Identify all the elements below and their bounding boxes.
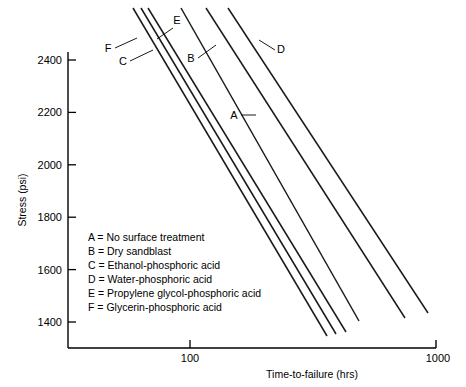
legend-item-D: D = Water-phosphoric acid — [88, 273, 212, 285]
y-tick-label-2000: 2000 — [38, 159, 62, 171]
legend-item-C: C = Ethanol-phosphoric acid — [88, 259, 220, 271]
x-tick-label-100: 100 — [181, 352, 199, 364]
y-tick-label-2200: 2200 — [38, 106, 62, 118]
y-tick-label-1400: 1400 — [38, 316, 62, 328]
curve-label-A: A — [230, 109, 238, 121]
curve-label-D: D — [277, 43, 285, 55]
legend-item-E: E = Propylene glycol-phosphoric acid — [88, 287, 261, 299]
curve-label-C: C — [119, 55, 127, 67]
curve-label-B: B — [187, 52, 194, 64]
x-axis-title: Time-to-failure (hrs) — [266, 368, 358, 380]
legend-item-B: B = Dry sandblast — [88, 245, 171, 257]
y-tick-label-1600: 1600 — [38, 264, 62, 276]
y-tick-label-1800: 1800 — [38, 211, 62, 223]
chart-background — [0, 0, 466, 387]
y-tick-label-2400: 2400 — [38, 54, 62, 66]
curve-label-E: E — [173, 14, 180, 26]
sn-curve-chart: 2400 2200 2000 1800 1600 1400 100 1000 T… — [0, 0, 466, 387]
x-tick-label-1000: 1000 — [426, 352, 450, 364]
curve-label-F: F — [105, 42, 112, 54]
legend-item-A: A = No surface treatment — [88, 231, 205, 243]
legend-item-F: F = Glycerin-phosphoric acid — [88, 301, 222, 313]
y-axis-title: Stress (psi) — [16, 173, 28, 226]
